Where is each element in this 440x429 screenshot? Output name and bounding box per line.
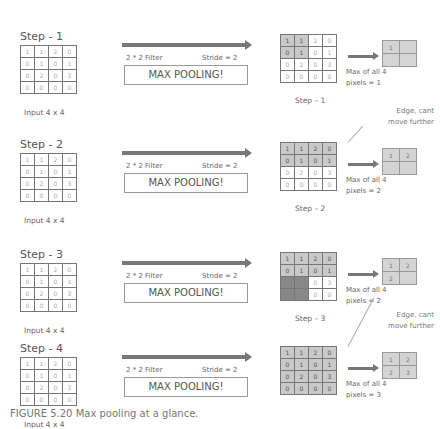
filter-arrow — [122, 261, 246, 265]
step-caption: Step – 2 — [295, 204, 325, 213]
input-cell: 0 — [49, 178, 63, 190]
step-cell: 0 — [309, 371, 323, 383]
step-cell: 0 — [309, 265, 323, 277]
step-cell: 0 — [323, 71, 337, 83]
input-cell: 1 — [35, 166, 49, 178]
input-cell: 1 — [35, 58, 49, 70]
input-grid-row: 0101 — [21, 58, 77, 70]
step-grid: 1120010102030000 — [280, 346, 337, 395]
filter-size-label: 2 * 2 Filter — [126, 366, 162, 374]
input-cell: 0 — [21, 190, 35, 202]
step-grid-row: 0101 — [281, 155, 337, 167]
input-grid-row: 1120 — [21, 358, 77, 370]
step-cell: 1 — [295, 347, 309, 359]
max-note-line2: pixels = 3 — [346, 390, 381, 401]
max-note-line2: pixels = 2 — [346, 186, 381, 197]
step-title: Step - 4 — [20, 342, 63, 355]
output-cell: 2 — [400, 353, 417, 366]
step-cell: 0 — [295, 71, 309, 83]
step-cell: 2 — [309, 143, 323, 155]
input-grid-row: 0000 — [21, 82, 77, 94]
step-cell: 2 — [295, 277, 309, 289]
step-cell: 0 — [281, 167, 295, 179]
input-cell: 1 — [63, 276, 77, 288]
step-cell: 1 — [281, 35, 295, 47]
input-label: Input 4 x 4 — [24, 326, 65, 335]
step-title: Step - 1 — [20, 30, 63, 43]
input-cell: 0 — [21, 382, 35, 394]
edge-note-line1: Edge, cant — [344, 106, 434, 117]
output-grid-row: 12 — [383, 353, 417, 366]
input-cell: 0 — [49, 300, 63, 312]
edge-note-line2: move further — [344, 117, 434, 128]
input-cell: 0 — [63, 46, 77, 58]
max-note-line1: Max of all 4 — [346, 379, 387, 390]
input-cell: 1 — [21, 264, 35, 276]
output-grid-row: 23 — [383, 366, 417, 379]
max-note-line1: Max of all 4 — [346, 67, 387, 78]
input-grid-row: 0000 — [21, 300, 77, 312]
step-cell: 0 — [323, 347, 337, 359]
input-cell: 0 — [49, 288, 63, 300]
step-title: Step - 2 — [20, 138, 63, 151]
input-cell: 1 — [63, 166, 77, 178]
output-arrow — [348, 163, 374, 166]
input-cell: 1 — [35, 154, 49, 166]
step-cell: 3 — [323, 59, 337, 71]
output-grid-row: 12 — [383, 149, 417, 162]
input-cell: 0 — [63, 300, 77, 312]
input-cell: 0 — [49, 70, 63, 82]
step-grid-row: 0203 — [281, 59, 337, 71]
step-cell: 0 — [309, 289, 323, 301]
input-cell: 3 — [63, 382, 77, 394]
step-cell: 0 — [309, 167, 323, 179]
output-cell — [383, 162, 400, 175]
step-grid-row: 0000 — [281, 179, 337, 191]
input-cell: 0 — [63, 394, 77, 406]
input-cell: 0 — [21, 300, 35, 312]
input-cell: 1 — [35, 46, 49, 58]
step-grid-row: 1120 — [281, 35, 337, 47]
output-cell: 2 — [400, 259, 417, 272]
output-cell — [383, 54, 400, 67]
output-cell — [400, 162, 417, 175]
step-cell: 1 — [295, 35, 309, 47]
step-cell: 2 — [309, 347, 323, 359]
step-caption: Step – 1 — [295, 96, 325, 105]
input-cell: 1 — [21, 46, 35, 58]
step-cell: 1 — [323, 47, 337, 59]
output-arrow — [348, 55, 374, 58]
step-cell: 2 — [295, 59, 309, 71]
input-cell: 0 — [63, 358, 77, 370]
edge-pointer-line — [348, 126, 363, 143]
step-cell: 1 — [281, 253, 295, 265]
input-cell: 0 — [49, 276, 63, 288]
step-cell: 1 — [281, 347, 295, 359]
step-cell: 0 — [281, 179, 295, 191]
step-cell: 0 — [309, 359, 323, 371]
output-grid: 12 — [382, 148, 417, 175]
input-cell: 1 — [35, 358, 49, 370]
step-grid-row: 0000 — [281, 71, 337, 83]
max-pooling-label-box: MAX POOLING! — [124, 173, 248, 193]
step-cell: 0 — [281, 371, 295, 383]
input-cell: 0 — [49, 370, 63, 382]
step-cell: 1 — [295, 265, 309, 277]
step-cell: 1 — [295, 143, 309, 155]
output-cell: 1 — [383, 41, 400, 54]
step-grid-row: 0203 — [281, 167, 337, 179]
step-cell: 1 — [295, 47, 309, 59]
step-grid-row: 0101 — [281, 265, 337, 277]
step-cell: 0 — [281, 277, 295, 289]
step-grid-row: 1120 — [281, 347, 337, 359]
output-grid: 1223 — [382, 352, 417, 379]
filter-arrow — [122, 43, 246, 47]
step-cell: 2 — [295, 167, 309, 179]
max-note-line2: pixels = 2 — [346, 296, 381, 307]
step-cell: 0 — [281, 383, 295, 395]
step-grid-row: 1120 — [281, 143, 337, 155]
input-cell: 2 — [35, 288, 49, 300]
max-note-line1: Max of all 4 — [346, 175, 387, 186]
input-cell: 0 — [63, 264, 77, 276]
step-grid-row: 1120 — [281, 253, 337, 265]
